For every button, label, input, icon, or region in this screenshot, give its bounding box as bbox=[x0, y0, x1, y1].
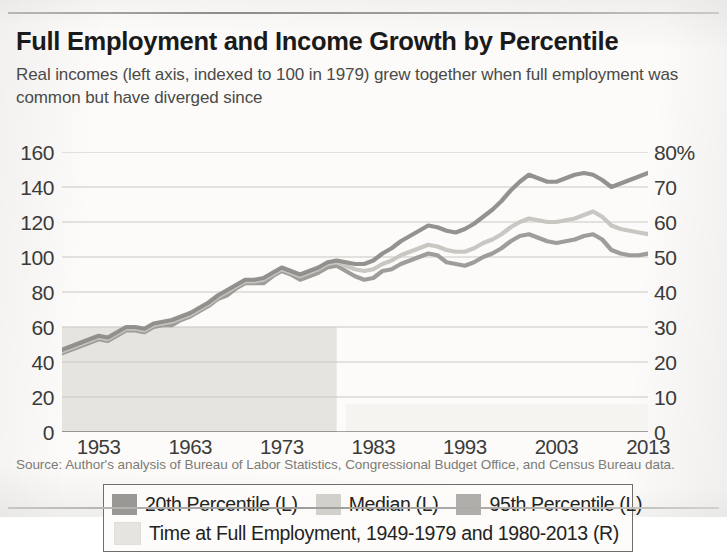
y-axis-right-tick-10: 10 bbox=[654, 387, 677, 408]
chart-subtitle: Real incomes (left axis, indexed to 100 … bbox=[16, 64, 696, 109]
legend-item-20th-percentile[interactable]: 20th Percentile (L) bbox=[112, 493, 298, 516]
y-axis-left-tick-40: 40 bbox=[31, 352, 54, 373]
y-axis-left: 020406080100120140160 bbox=[0, 152, 54, 432]
plot-svg-wrapper bbox=[62, 152, 648, 432]
y-axis-right-tick-30: 30 bbox=[654, 317, 677, 338]
legend-label-95th-percentile: 95th Percentile (L) bbox=[489, 493, 642, 516]
y-axis-left-tick-20: 20 bbox=[31, 387, 54, 408]
y-axis-right-tick-40: 40 bbox=[654, 282, 677, 303]
source-note: Source: Author's analysis of Bureau of L… bbox=[16, 455, 706, 475]
y-axis-right-tick-20: 20 bbox=[654, 352, 677, 373]
chart-region: 020406080100120140160 01020304050607080%… bbox=[0, 132, 727, 442]
y-axis-left-tick-100: 100 bbox=[20, 247, 54, 268]
legend-label-median: Median (L) bbox=[349, 493, 439, 516]
plot-area bbox=[62, 152, 648, 432]
shaded-band-full-employment-1980-2013 bbox=[346, 404, 648, 432]
legend-swatch-20th-percentile bbox=[112, 494, 137, 515]
legend-row-secondary: Time at Full Employment, 1949-1979 and 1… bbox=[112, 519, 624, 548]
y-axis-left-tick-160: 160 bbox=[20, 142, 54, 163]
legend-item-full-employment[interactable]: Time at Full Employment, 1949-1979 and 1… bbox=[114, 522, 619, 545]
legend-label-20th-percentile: 20th Percentile (L) bbox=[145, 493, 298, 516]
y-axis-right-tick-60: 60 bbox=[654, 212, 677, 233]
y-axis-left-tick-0: 0 bbox=[43, 422, 54, 443]
chart-title: Full Employment and Income Growth by Per… bbox=[16, 28, 706, 55]
legend-swatch-median bbox=[316, 494, 341, 515]
y-axis-right-tick-70: 70 bbox=[654, 177, 677, 198]
bottom-divider-rule bbox=[8, 507, 719, 509]
legend-label-full-employment: Time at Full Employment, 1949-1979 and 1… bbox=[149, 522, 619, 545]
legend-item-median[interactable]: Median (L) bbox=[316, 493, 439, 516]
y-axis-right: 01020304050607080% bbox=[654, 152, 724, 432]
y-axis-right-tick-80pct: 80% bbox=[654, 142, 695, 163]
y-axis-left-tick-120: 120 bbox=[20, 212, 54, 233]
legend-swatch-95th-percentile bbox=[456, 494, 481, 515]
y-axis-right-tick-50: 50 bbox=[654, 247, 677, 268]
chart-legend: 20th Percentile (L) Median (L) 95th Perc… bbox=[103, 484, 633, 552]
series-line-95th-percentile-l bbox=[62, 173, 648, 350]
y-axis-left-tick-140: 140 bbox=[20, 177, 54, 198]
y-axis-left-tick-80: 80 bbox=[31, 282, 54, 303]
legend-swatch-full-employment bbox=[114, 522, 141, 545]
y-axis-left-tick-60: 60 bbox=[31, 317, 54, 338]
legend-row-primary: 20th Percentile (L) Median (L) 95th Perc… bbox=[112, 490, 624, 519]
legend-item-95th-percentile[interactable]: 95th Percentile (L) bbox=[456, 493, 642, 516]
top-divider-rule bbox=[8, 12, 719, 14]
chart-svg bbox=[62, 152, 648, 432]
shaded-band-full-employment-1949-1979 bbox=[62, 327, 337, 432]
